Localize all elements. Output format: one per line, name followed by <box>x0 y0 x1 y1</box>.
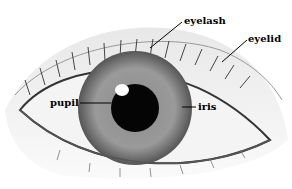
eye-diagram: eyelash eyelid pupil iris <box>0 0 292 189</box>
label-iris: iris <box>198 102 217 112</box>
label-pupil: pupil <box>50 98 79 108</box>
eye-illustration <box>0 0 292 189</box>
label-eyelid: eyelid <box>248 34 281 44</box>
reflection-highlight <box>115 84 129 96</box>
label-eyelash: eyelash <box>184 16 226 26</box>
